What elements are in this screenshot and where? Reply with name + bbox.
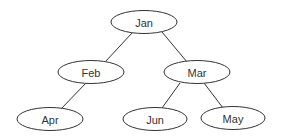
edge-jan-feb xyxy=(106,33,132,61)
node-label: May xyxy=(223,113,244,125)
node-label: Apr xyxy=(41,114,58,126)
node-jan: Jan xyxy=(111,11,177,34)
nodes: Jan Feb Mar Apr Jun May xyxy=(17,11,265,131)
tree-diagram: Jan Feb Mar Apr Jun May xyxy=(0,0,282,139)
node-label: Feb xyxy=(82,67,101,79)
edge-mar-may xyxy=(204,83,223,108)
node-label: Jan xyxy=(135,17,153,29)
node-label: Jun xyxy=(146,114,164,126)
node-jun: Jun xyxy=(123,108,187,131)
edge-feb-apr xyxy=(61,83,86,109)
node-apr: Apr xyxy=(17,108,83,131)
node-feb: Feb xyxy=(58,61,124,84)
node-label: Mar xyxy=(188,67,207,79)
edge-jan-mar xyxy=(162,32,187,62)
edge-mar-jun xyxy=(162,83,180,108)
node-may: May xyxy=(201,107,265,130)
node-mar: Mar xyxy=(164,61,230,84)
